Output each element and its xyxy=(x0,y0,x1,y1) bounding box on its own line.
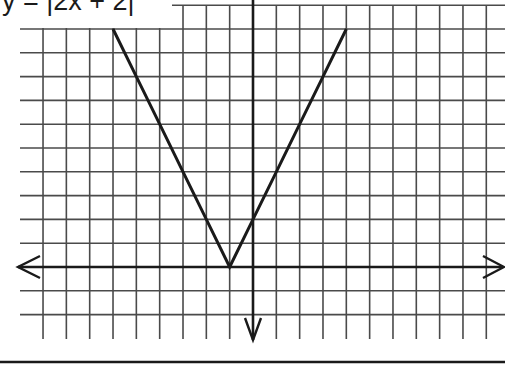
grid-lines xyxy=(20,5,505,339)
axes xyxy=(18,0,504,340)
equation-label: y = |2x + 2| xyxy=(0,0,172,28)
coordinate-plane xyxy=(0,0,505,371)
